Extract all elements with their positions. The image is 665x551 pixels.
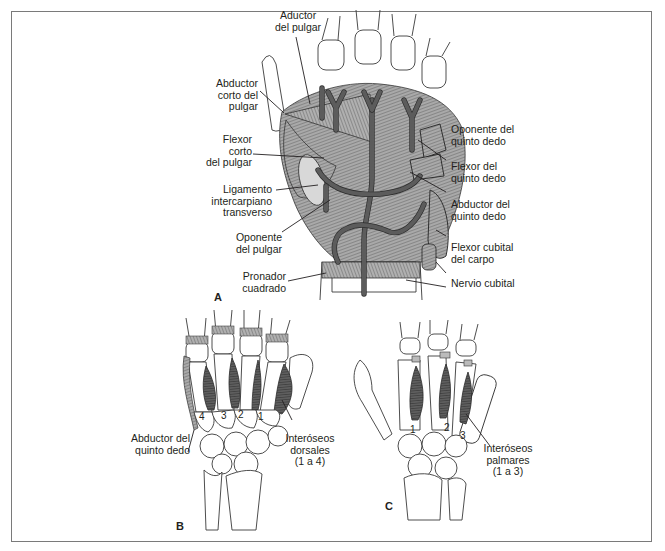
label-flexor-corto-pulgar: Flexor corto del pulgar bbox=[196, 134, 252, 169]
muscle-number-1-c: 1 bbox=[410, 424, 416, 435]
label-interoseos-palmares: Interóseos palmares (1 a 3) bbox=[478, 443, 538, 478]
muscle-number-2: 2 bbox=[238, 409, 244, 420]
muscle-number-3-c: 3 bbox=[460, 430, 466, 441]
muscle-number-4: 4 bbox=[199, 411, 205, 422]
label-oponente-quinto-dedo: Oponente del quinto dedo bbox=[451, 124, 514, 147]
label-flexor-cubital-carpo: Flexor cubital del carpo bbox=[451, 242, 513, 265]
label-flexor-quinto-dedo: Flexor del quinto dedo bbox=[451, 161, 506, 184]
muscle-number-2-c: 2 bbox=[444, 422, 450, 433]
label-aductor-pulgar: Aductor del pulgar bbox=[275, 10, 321, 33]
label-abductor-quinto-dedo: Abductor del quinto dedo bbox=[451, 199, 510, 222]
label-abductor-corto-pulgar: Abductor corto del pulgar bbox=[200, 78, 258, 113]
label-nervio-cubital: Nervio cubital bbox=[451, 278, 515, 290]
label-pronador-cuadrado: Pronador cuadrado bbox=[230, 271, 286, 294]
panel-c-drawing bbox=[354, 320, 498, 520]
muscle-number-3: 3 bbox=[221, 410, 227, 421]
panel-a-drawing bbox=[253, 10, 465, 300]
panel-letter-b: B bbox=[176, 520, 184, 532]
panel-letter-c: C bbox=[385, 500, 393, 512]
label-ligamento-intercarpiano: Ligamento intercarpiano transverso bbox=[190, 184, 272, 219]
label-abductor-quinto-dedo-b: Abductor del quinto dedo bbox=[126, 433, 190, 456]
label-oponente-pulgar: Oponente del pulgar bbox=[222, 232, 282, 255]
panel-letter-a: A bbox=[214, 291, 222, 303]
muscle-number-1: 1 bbox=[258, 411, 264, 422]
hand-anatomy-illustration bbox=[0, 0, 665, 551]
label-interoseos-dorsales: Interóseos dorsales (1 a 4) bbox=[280, 433, 340, 468]
